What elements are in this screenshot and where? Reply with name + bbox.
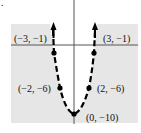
point-3-neg1 bbox=[91, 50, 96, 55]
point-vertex bbox=[71, 111, 76, 116]
inequality-graph: (−3, −1) (3, −1) (−2, −6) (2, −6) (0, −1… bbox=[0, 0, 141, 133]
label-2-neg6: (2, −6) bbox=[97, 83, 124, 95]
point-2-neg6 bbox=[86, 85, 91, 90]
label-vertex: (0, −10) bbox=[86, 112, 118, 124]
label-3-neg1: (3, −1) bbox=[103, 33, 130, 45]
label-neg3-neg1: (−3, −1) bbox=[14, 33, 47, 45]
point-neg3-neg1 bbox=[51, 50, 56, 55]
point-neg2-neg6 bbox=[57, 85, 62, 90]
label-neg2-neg6: (−2, −6) bbox=[18, 83, 51, 95]
corner-mark: . bbox=[1, 0, 4, 8]
